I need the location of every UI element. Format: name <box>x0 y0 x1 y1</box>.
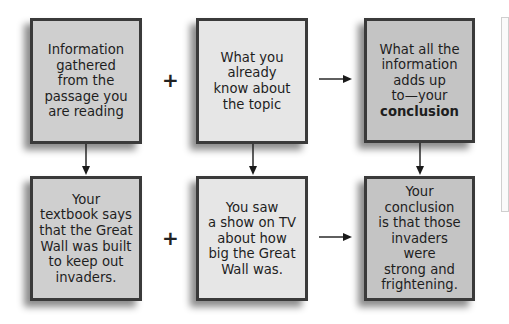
conclusion-keyword: conclusion <box>380 104 459 119</box>
arrow-down-icon <box>415 143 425 176</box>
conclusion-definition-text: What all the information adds up to—your… <box>379 42 459 120</box>
box-conclusion-example: Your conclusion is that those invaders w… <box>364 176 475 301</box>
arrow-down-icon <box>81 144 91 176</box>
box-passage-information: Information gathered from the passage yo… <box>30 18 142 144</box>
arrow-down-icon <box>248 144 258 176</box>
box-prior-knowledge: What you already know about the topic <box>196 18 308 144</box>
arrow-right-icon <box>319 74 353 84</box>
arrow-right-icon <box>319 232 353 242</box>
plus-sign: + <box>162 70 179 90</box>
box-textbook-example: Your textbook says that the Great Wall w… <box>30 176 142 301</box>
box-conclusion-definition: What all the information adds up to—your… <box>364 18 475 143</box>
plus-sign: + <box>162 228 179 248</box>
box-tv-show-example: You saw a show on TV about how big the G… <box>196 176 308 301</box>
side-panel-edge <box>501 17 509 212</box>
